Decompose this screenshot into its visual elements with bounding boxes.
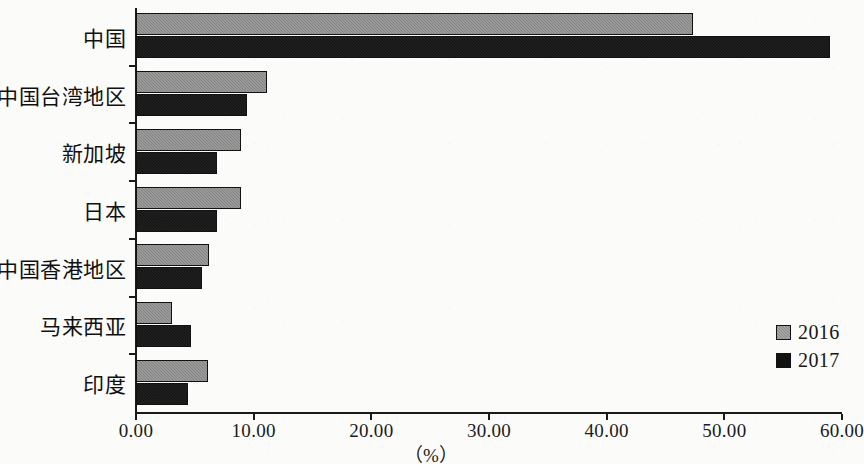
y-axis-tick-2 [129, 180, 136, 182]
x-axis-tick-label-6: 60.00 [820, 420, 864, 442]
x-axis-tick-label-4: 40.00 [585, 420, 629, 442]
y-axis-tick-5 [129, 353, 136, 355]
x-axis-tick-label-2: 20.00 [349, 420, 393, 442]
bar-2017-5 [136, 325, 191, 347]
x-axis-tick-label-1: 10.00 [232, 420, 276, 442]
legend-label-2017: 2017 [798, 349, 840, 372]
bar-2016-3 [136, 187, 241, 209]
x-axis-tick-label-5: 50.00 [702, 420, 746, 442]
category-label-5: 马来西亚 [40, 310, 126, 340]
category-label-1: 中国台湾地区 [0, 80, 126, 110]
bar-2017-6 [136, 383, 188, 405]
bar-2017-2 [136, 152, 217, 174]
bar-2016-5 [136, 302, 172, 324]
legend: 2016 2017 [776, 318, 840, 374]
bar-2017-3 [136, 210, 217, 232]
category-label-3: 日本 [83, 195, 126, 225]
bar-2016-2 [136, 129, 241, 151]
y-axis-tick-0 [129, 65, 136, 67]
legend-label-2016: 2016 [798, 321, 840, 344]
legend-swatch-2017-icon [776, 353, 791, 368]
legend-item-2016: 2016 [776, 318, 840, 346]
x-axis-unit-label: （%） [404, 440, 458, 464]
bar-2016-6 [136, 360, 208, 382]
plot-area [136, 8, 842, 413]
category-label-4: 中国香港地区 [0, 253, 126, 283]
x-axis-tick-label-3: 30.00 [467, 420, 511, 442]
category-label-0: 中国 [83, 22, 126, 52]
bar-2017-4 [136, 267, 202, 289]
y-axis-tick-4 [129, 296, 136, 298]
x-axis-tick-label-0: 0.00 [119, 420, 153, 442]
legend-item-2017: 2017 [776, 346, 840, 374]
bar-2016-0 [136, 13, 693, 35]
y-axis-tick-1 [129, 122, 136, 124]
bar-2016-4 [136, 244, 209, 266]
bar-2016-1 [136, 71, 267, 93]
legend-swatch-2016-icon [776, 325, 791, 340]
bar-2017-1 [136, 94, 247, 116]
category-label-6: 印度 [83, 368, 126, 398]
y-axis-tick-3 [129, 238, 136, 240]
bar-2017-0 [136, 36, 830, 58]
bar-chart-figure: 0.0010.0020.0030.0040.0050.0060.00 中国中国台… [0, 0, 864, 464]
category-label-2: 新加坡 [62, 137, 127, 167]
